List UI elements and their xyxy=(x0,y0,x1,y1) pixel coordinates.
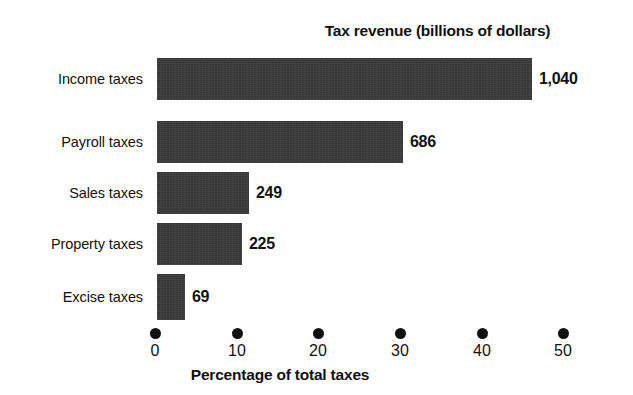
x-tick-dot xyxy=(395,328,406,339)
x-tick-label: 10 xyxy=(207,342,267,360)
x-axis-title: Percentage of total taxes xyxy=(155,366,405,384)
x-axis: 0 10 20 30 40 50 Percentage of total tax… xyxy=(0,0,633,395)
x-tick-label: 20 xyxy=(288,342,348,360)
x-tick-label: 50 xyxy=(533,342,593,360)
bar-chart: Tax revenue (billions of dollars) Income… xyxy=(0,0,633,395)
x-tick-label: 0 xyxy=(125,342,185,360)
x-tick-label: 30 xyxy=(370,342,430,360)
x-tick-dot xyxy=(313,328,324,339)
x-tick-dot xyxy=(558,328,569,339)
x-tick-dot xyxy=(232,328,243,339)
x-tick-label: 40 xyxy=(452,342,512,360)
x-tick-dot xyxy=(150,328,161,339)
x-tick-dot xyxy=(477,328,488,339)
